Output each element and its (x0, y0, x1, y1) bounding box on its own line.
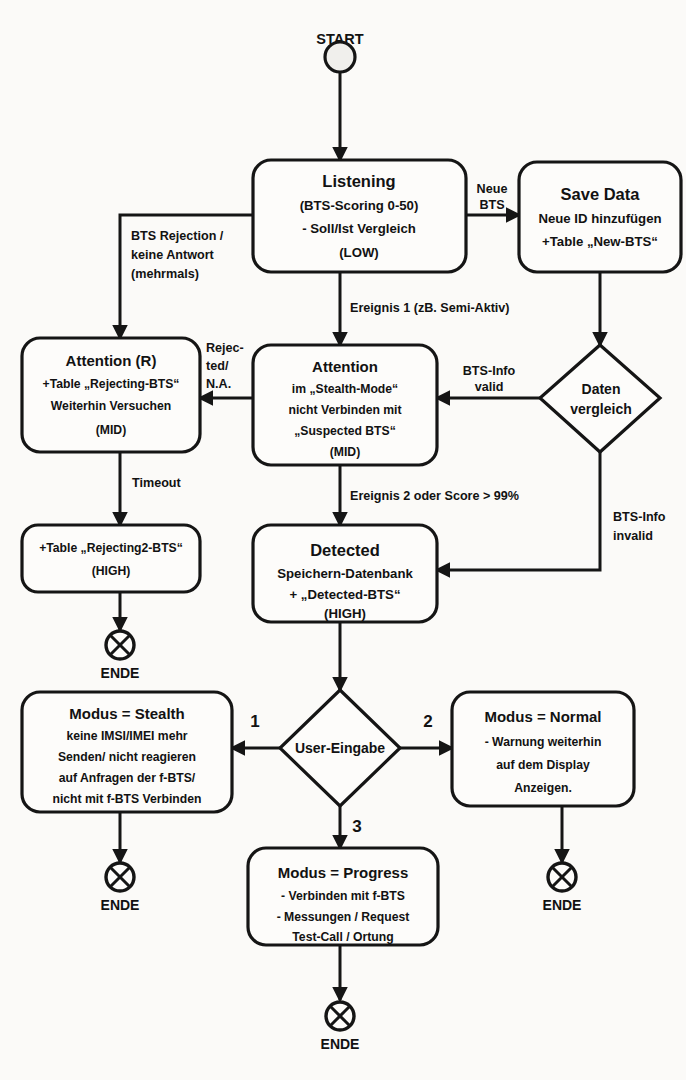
attention-line-3: „Suspected BTS“ (294, 424, 396, 438)
edge-label-rejected-2: ted/ (206, 359, 229, 373)
modus-stealth-title: Modus = Stealth (69, 705, 184, 722)
node-modus-progress[interactable]: Modus = Progress - Verbinden mit f-BTS -… (248, 848, 438, 945)
start-node[interactable] (325, 42, 355, 72)
user-eingabe-label: User-Eingabe (295, 740, 385, 756)
listening-line-3: (LOW) (339, 245, 379, 260)
modus-normal-line-1: - Warnung weiterhin (485, 735, 602, 749)
node-end-normal[interactable]: ENDE (543, 863, 582, 913)
node-listening[interactable]: Listening (BTS-Scoring 0-50) - Soll/Ist … (253, 160, 466, 272)
edge-label-rejected-3: N.A. (206, 377, 231, 391)
daten-vergleich-line-2: vergleich (570, 401, 631, 417)
end-rejecting2-label: ENDE (101, 665, 140, 681)
edge-label-bts-rejection-2: keine Antwort (131, 248, 215, 262)
node-end-rejecting2[interactable]: ENDE (101, 631, 140, 681)
edge-label-bts: BTS (479, 198, 504, 212)
modus-progress-title: Modus = Progress (278, 864, 408, 881)
edge-label-bts-info-invalid-2: invalid (613, 529, 653, 543)
modus-stealth-line-4: nicht mit f-BTS Verbinden (53, 792, 202, 806)
modus-normal-line-3: Anzeigen. (514, 781, 572, 795)
edge-label-branch-2: 2 (423, 712, 432, 731)
attention-r-line-2: Weiterhin Versuchen (51, 399, 171, 413)
edge-label-bts-info-invalid-1: BTS-Info (613, 510, 666, 524)
attention-r-line-3: (MID) (96, 423, 126, 437)
edge-label-bts-info-valid-2: valid (475, 380, 504, 394)
listening-title: Listening (322, 172, 395, 190)
edge-label-branch-3: 3 (352, 817, 361, 836)
flowchart-canvas: START Listening (BTS-Scoring 0-50) - Sol… (0, 0, 686, 1080)
modus-progress-line-3: Test-Call / Ortung (292, 930, 393, 944)
end-normal-label: ENDE (543, 897, 582, 913)
edge-daten-vergleich-detected (437, 452, 600, 570)
modus-progress-line-2: - Messungen / Request (277, 910, 410, 924)
modus-normal-title: Modus = Normal (484, 708, 601, 725)
node-modus-normal[interactable]: Modus = Normal - Warnung weiterhin auf d… (452, 692, 634, 806)
node-save-data[interactable]: Save Data Neue ID hinzufügen +Table „New… (519, 162, 681, 272)
node-rejecting2[interactable]: +Table „Rejecting2-BTS“ (HIGH) (22, 525, 200, 592)
modus-stealth-line-1: keine IMSI/IMEI mehr (66, 729, 187, 743)
edge-label-neue: Neue (477, 182, 508, 196)
attention-line-2: nicht Verbinden mit (288, 403, 401, 417)
edge-label-bts-rejection-1: BTS Rejection / (131, 229, 224, 243)
modus-stealth-line-2: Senden/ nicht reagieren (58, 750, 196, 764)
edge-label-timeout: Timeout (132, 476, 182, 490)
listening-line-1: (BTS-Scoring 0-50) (300, 198, 419, 213)
save-data-title: Save Data (561, 185, 641, 203)
node-daten-vergleich[interactable]: Daten vergleich (540, 345, 660, 452)
save-data-line-1: Neue ID hinzufügen (538, 211, 661, 226)
detected-line-2: + „Detected-BTS“ (289, 587, 400, 602)
end-progress-label: ENDE (321, 1036, 360, 1052)
flowchart-page: START Listening (BTS-Scoring 0-50) - Sol… (0, 0, 686, 1080)
attention-line-1: im „Stealth-Mode“ (292, 382, 398, 396)
edge-label-ereignis-1: Ereignis 1 (zB. Semi-Aktiv) (350, 301, 510, 315)
attention-r-line-1: +Table „Rejecting-BTS“ (43, 377, 180, 391)
detected-title: Detected (310, 541, 380, 559)
detected-line-1: Speichern-Datenbank (277, 566, 413, 581)
daten-vergleich-line-1: Daten (582, 381, 621, 397)
node-modus-stealth[interactable]: Modus = Stealth keine IMSI/IMEI mehr Sen… (22, 692, 232, 812)
edge-label-rejected-1: Rejec- (206, 341, 244, 355)
attention-r-title: Attention (R) (66, 352, 157, 369)
end-stealth-label: ENDE (101, 897, 140, 913)
rejecting2-line-1: +Table „Rejecting2-BTS“ (39, 541, 183, 555)
listening-line-2: - Soll/Ist Vergleich (302, 221, 416, 236)
node-detected[interactable]: Detected Speichern-Datenbank + „Detected… (253, 525, 437, 622)
save-data-line-2: +Table „New-BTS“ (542, 234, 658, 249)
edge-label-bts-rejection-3: (mehrmals) (131, 267, 199, 281)
detected-line-3: (HIGH) (324, 606, 366, 621)
node-attention[interactable]: Attention im „Stealth-Mode“ nicht Verbin… (253, 345, 437, 465)
node-attention-r[interactable]: Attention (R) +Table „Rejecting-BTS“ Wei… (22, 338, 200, 452)
modus-progress-line-1: - Verbinden mit f-BTS (281, 889, 405, 903)
node-end-stealth[interactable]: ENDE (101, 863, 140, 913)
edge-label-branch-1: 1 (250, 712, 259, 731)
rejecting2-line-2: (HIGH) (92, 564, 131, 578)
edge-label-ereignis-2: Ereignis 2 oder Score > 99% (350, 489, 519, 503)
attention-line-4: (MID) (330, 445, 360, 459)
node-user-eingabe[interactable]: User-Eingabe (280, 690, 400, 806)
modus-stealth-line-3: auf Anfragen der f-BTS/ (59, 771, 196, 785)
edge-label-bts-info-valid-1: BTS-Info (463, 364, 516, 378)
node-end-progress[interactable]: ENDE (321, 1002, 360, 1052)
modus-normal-line-2: auf dem Display (496, 758, 590, 772)
attention-title: Attention (312, 358, 378, 375)
